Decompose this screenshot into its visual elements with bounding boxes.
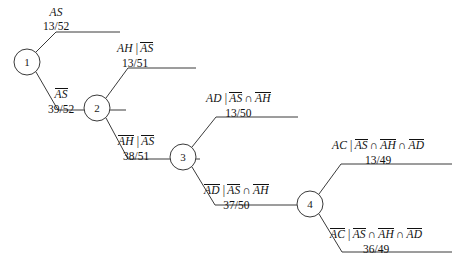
edge-expression-ad-given-not-as-not-ah: AD|AS∩AH bbox=[206, 92, 271, 105]
edge-probability-not-ac-given-all-complements: 36/49 bbox=[330, 241, 422, 255]
edge-label-not-ad-given-not-as-not-ah: AD|AS∩AH 37/50 bbox=[204, 184, 269, 211]
edge-label-ac-given-all-complements: AC|AS∩AH∩AD 13/49 bbox=[332, 139, 424, 166]
edge-expression-ac-given-all-complements: AC|AS∩AH∩AD bbox=[332, 139, 424, 152]
node-3[interactable]: 3 bbox=[170, 144, 196, 170]
node-2[interactable]: 2 bbox=[84, 95, 110, 121]
edge-line-ac-given-all-complements bbox=[319, 164, 452, 194]
edge-probability-as-complement: 39/52 bbox=[48, 101, 74, 115]
edge-expression-not-ah-given-not-as: AH|AS bbox=[118, 135, 154, 148]
edge-probability-not-ad-given-not-as-not-ah: 37/50 bbox=[204, 197, 269, 211]
edge-probability-ac-given-all-complements: 13/49 bbox=[332, 152, 424, 166]
edge-line-ad-given-not-as-not-ah bbox=[192, 117, 298, 147]
edge-probability-as: 13/52 bbox=[43, 18, 69, 32]
edge-expression-as: AS bbox=[43, 6, 69, 18]
node-2-label: 2 bbox=[94, 102, 100, 114]
edge-probability-not-ah-given-not-as: 38/51 bbox=[118, 148, 154, 162]
edge-label-ah-given-not-as: AH|AS 13/51 bbox=[117, 42, 153, 69]
node-4-label: 4 bbox=[307, 198, 313, 210]
edge-label-as-complement: AS 39/52 bbox=[48, 88, 74, 115]
edge-label-not-ac-given-all-complements: AC|AS∩AH∩AD 36/49 bbox=[330, 228, 422, 255]
node-3-label: 3 bbox=[180, 151, 186, 163]
edge-line-as bbox=[36, 32, 120, 52]
edge-line-ah-given-not-as bbox=[106, 68, 196, 98]
edge-probability-ad-given-not-as-not-ah: 13/50 bbox=[206, 105, 271, 119]
edge-expression-not-ad-given-not-as-not-ah: AD|AS∩AH bbox=[204, 184, 269, 197]
node-1-label: 1 bbox=[24, 56, 30, 68]
edge-expression-not-ac-given-all-complements: AC|AS∩AH∩AD bbox=[330, 228, 422, 241]
node-4[interactable]: 4 bbox=[297, 191, 323, 217]
edge-expression-ah-given-not-as: AH|AS bbox=[117, 42, 153, 55]
edge-label-ad-given-not-as-not-ah: AD|AS∩AH 13/50 bbox=[206, 92, 271, 119]
edge-label-not-ah-given-not-as: AH|AS 38/51 bbox=[118, 135, 154, 162]
edge-probability-ah-given-not-as: 13/51 bbox=[117, 55, 153, 69]
edge-label-as: AS 13/52 bbox=[43, 6, 69, 32]
edge-expression-as-complement: AS bbox=[48, 88, 74, 101]
probability-tree-diagram: 1 2 3 4 AS 13/52 AS 39/52 AH|AS 13/51 AH… bbox=[0, 0, 454, 268]
node-1[interactable]: 1 bbox=[14, 49, 40, 75]
